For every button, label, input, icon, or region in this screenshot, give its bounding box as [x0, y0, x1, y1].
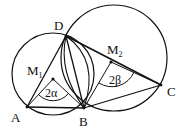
- label-m1-main: M: [27, 63, 39, 78]
- diagram-canvas: D A B C M1 M2 2α 2β: [0, 0, 181, 133]
- label-c: C: [167, 84, 176, 99]
- circle-m1: [12, 33, 94, 115]
- label-d: D: [54, 18, 63, 33]
- label-m2: M2: [107, 42, 123, 59]
- center-m2-dot: [109, 60, 112, 63]
- radius-m1-b: [53, 79, 84, 108]
- label-m2-sub: 2: [119, 50, 123, 59]
- point-b-dot: [83, 107, 86, 110]
- point-a-dot: [26, 106, 29, 109]
- label-m1-sub: 1: [39, 71, 43, 80]
- label-angle-beta: 2β: [109, 73, 121, 87]
- label-b: B: [79, 114, 88, 129]
- segment-db: [66, 36, 84, 108]
- geometry-figure: D A B C M1 M2 2α 2β: [0, 0, 181, 133]
- point-d-dot: [65, 35, 68, 38]
- point-c-dot: [160, 84, 163, 87]
- label-a: A: [11, 110, 21, 125]
- label-angle-alpha: 2α: [45, 86, 58, 100]
- segment-ab: [27, 107, 84, 108]
- circle-m2: [61, 5, 167, 111]
- label-m2-main: M: [107, 42, 119, 57]
- label-m1: M1: [27, 63, 43, 80]
- center-m1-dot: [51, 77, 54, 80]
